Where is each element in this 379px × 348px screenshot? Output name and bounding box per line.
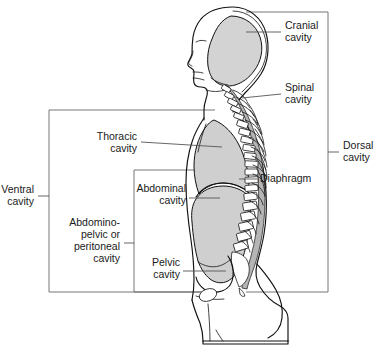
abdominal-cavity-label-line1: Abdominal (136, 182, 186, 194)
thoracic-cavity-label-line1: Thoracic (97, 130, 137, 142)
abdominopelvic-cavity-label-line1: Abdomino- (69, 216, 120, 228)
label-diaphragm: Diaphragm (260, 172, 312, 184)
label-abdominal-cavity: Abdominal cavity (136, 182, 186, 206)
spinal-cavity-label-line2: cavity (285, 93, 313, 105)
pelvic-cavity-label-line1: Pelvic (152, 256, 180, 268)
abdominopelvic-cavity-label-line4: cavity (93, 252, 121, 264)
anatomy-illustration: Cranial cavity Spinal cavity Dorsal cavi… (0, 0, 379, 348)
ventral-cavity-label-line2: cavity (7, 195, 35, 207)
cranial-cavity-label-line2: cavity (285, 31, 313, 43)
spinal-cavity-label-line1: Spinal (285, 81, 314, 93)
cranial-cavity-region (208, 16, 262, 86)
label-cranial-cavity: Cranial cavity (285, 19, 318, 43)
body-cavities-diagram: Cranial cavity Spinal cavity Dorsal cavi… (0, 0, 379, 348)
abdominopelvic-cavity-label-line2: pelvic or (81, 228, 121, 240)
dorsal-cavity-label-line1: Dorsal (343, 139, 373, 151)
pelvic-cavity-label-line2: cavity (153, 268, 181, 280)
label-spinal-cavity: Spinal cavity (285, 81, 314, 105)
ventral-cavity-label-line1: Ventral (1, 183, 34, 195)
abdominal-cavity-label-line2: cavity (159, 194, 187, 206)
label-ventral-cavity: Ventral cavity (1, 183, 34, 207)
label-abdominopelvic-cavity: Abdomino- pelvic or peritoneal cavity (69, 216, 121, 264)
diaphragm-label-line1: Diaphragm (260, 172, 312, 184)
label-thoracic-cavity: Thoracic cavity (97, 130, 138, 154)
dorsal-cavity-label-line2: cavity (343, 151, 371, 163)
cranial-cavity-label-line1: Cranial (285, 19, 318, 31)
label-dorsal-cavity: Dorsal cavity (343, 139, 373, 163)
abdominopelvic-cavity-label-line3: peritoneal (74, 240, 120, 252)
thoracic-cavity-label-line2: cavity (110, 142, 138, 154)
label-pelvic-cavity: Pelvic cavity (152, 256, 181, 280)
